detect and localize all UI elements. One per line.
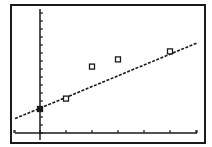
data-point-marker [64, 96, 69, 101]
calculator-graph-screen [0, 0, 212, 147]
data-point-marker [90, 64, 95, 69]
data-point-marker [38, 107, 43, 112]
data-point-marker [168, 49, 173, 54]
y-axis [40, 9, 43, 140]
data-point-marker [116, 57, 121, 62]
data-points [38, 49, 173, 112]
